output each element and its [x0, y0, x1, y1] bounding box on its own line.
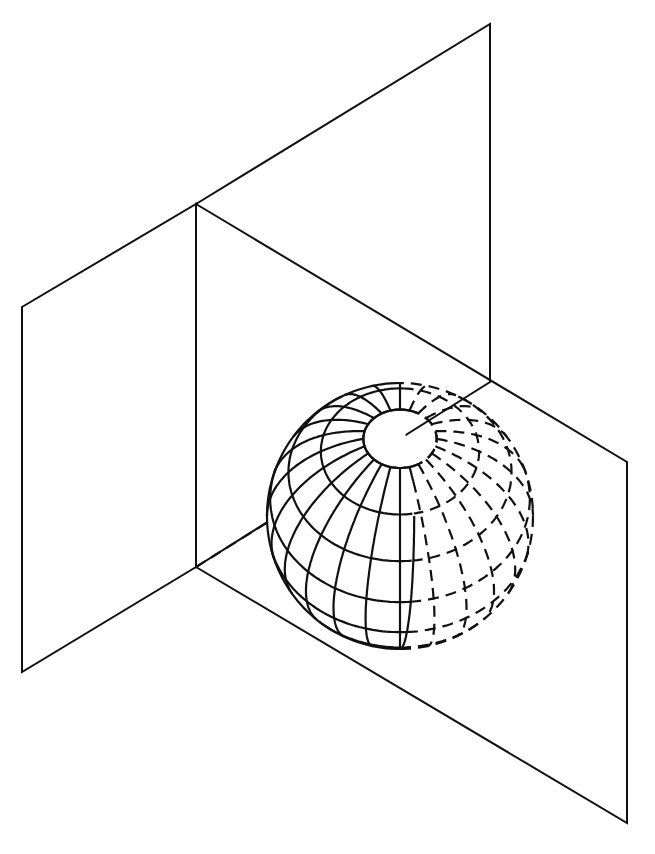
- hidden-grid-line: [413, 482, 434, 646]
- hidden-grid-line: [410, 469, 530, 602]
- hidden-grid-line: [418, 464, 466, 636]
- sphere-visible-face: [267, 383, 414, 649]
- globe-planes-diagram: [0, 0, 655, 854]
- left-plane: [22, 204, 196, 672]
- hidden-grid-line: [418, 394, 455, 414]
- hidden-grid-line: [426, 459, 494, 619]
- grid-line: [400, 514, 412, 515]
- hidden-grid-line: [437, 439, 533, 516]
- diagram-canvas: [0, 0, 655, 854]
- sphere-hidden-grid: [400, 383, 533, 649]
